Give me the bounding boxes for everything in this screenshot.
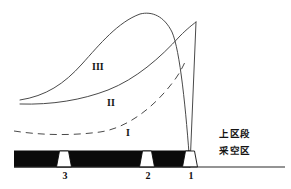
pillar-label-3: 3: [59, 171, 71, 181]
curve-zone-3-path: [20, 13, 190, 167]
zone-label-3: III: [92, 62, 104, 72]
figure-root: III II I 3 2 1 上区段 采空区: [0, 0, 291, 189]
zone-label-2: II: [107, 98, 115, 108]
zone-label-1: I: [126, 128, 130, 138]
goaf-area-label: 采空区: [219, 146, 251, 156]
pillar-shape-1: [183, 151, 198, 167]
pillar-shape-3: [57, 151, 72, 167]
pillar-shape-2: [140, 151, 155, 167]
pillar-label-2: 2: [142, 171, 154, 181]
pillar-label-1: 1: [185, 171, 197, 181]
upper-section-label: 上区段: [219, 129, 251, 139]
working-face-line: [190, 22, 196, 167]
coal-seam-band: [14, 151, 190, 167]
diagram-canvas: [0, 0, 291, 189]
